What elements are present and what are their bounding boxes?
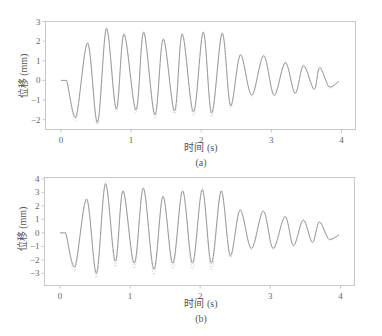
panel-a: −2−10123 01234 时间 (s) 位移 (mm) (a) bbox=[17, 17, 356, 170]
y-ticks-a: −2−10123 bbox=[31, 17, 46, 125]
y-tick-label: 1 bbox=[35, 214, 40, 224]
x-tick-label: 1 bbox=[128, 291, 133, 301]
x-axis-label-b: 时间 (s) bbox=[184, 297, 217, 310]
x-tick-label: 1 bbox=[129, 135, 134, 145]
series-a bbox=[61, 27, 339, 125]
y-tick-label: −2 bbox=[30, 255, 40, 265]
y-tick-label: 1 bbox=[36, 56, 41, 66]
y-tick-label: 0 bbox=[35, 228, 40, 238]
y-tick-label: −1 bbox=[30, 241, 40, 251]
y-axis-label-a: 位移 (mm) bbox=[17, 54, 30, 99]
series-line-dotted bbox=[61, 27, 339, 125]
caption-a: (a) bbox=[195, 157, 206, 169]
x-tick-label: 4 bbox=[338, 291, 343, 301]
series-line-solid bbox=[61, 28, 339, 122]
x-axis-label-a: 时间 (s) bbox=[184, 141, 217, 154]
x-tick-label: 3 bbox=[268, 291, 273, 301]
y-axis-label-b: 位移 (mm) bbox=[16, 207, 29, 252]
y-tick-label: 4 bbox=[35, 174, 40, 184]
x-tick-label: 4 bbox=[339, 135, 344, 145]
x-tick-label: 3 bbox=[269, 135, 274, 145]
y-tick-label: −1 bbox=[31, 95, 41, 105]
series-line-solid bbox=[60, 184, 339, 274]
series-line-dotted bbox=[60, 183, 339, 278]
y-tick-label: −2 bbox=[31, 115, 41, 125]
y-tick-label: 2 bbox=[36, 36, 41, 46]
series-b bbox=[60, 183, 339, 278]
caption-b: (b) bbox=[195, 313, 207, 325]
y-tick-label: −3 bbox=[30, 268, 40, 278]
figure: −2−10123 01234 时间 (s) 位移 (mm) (a) −3−2−1… bbox=[0, 0, 382, 336]
x-tick-label: 0 bbox=[58, 291, 63, 301]
panel-b: −3−2−101234 01234 时间 (s) 位移 (mm) (b) bbox=[16, 174, 355, 325]
y-ticks-b: −3−2−101234 bbox=[30, 174, 45, 279]
y-tick-label: 3 bbox=[36, 17, 41, 27]
y-tick-label: 2 bbox=[35, 201, 40, 211]
y-tick-label: 0 bbox=[36, 75, 41, 85]
y-tick-label: 3 bbox=[35, 187, 40, 197]
x-tick-label: 0 bbox=[59, 135, 64, 145]
